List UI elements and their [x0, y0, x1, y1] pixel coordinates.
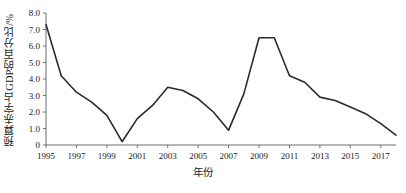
x-tick-label: 2003 — [159, 151, 178, 161]
x-tick-label: 2013 — [311, 151, 330, 161]
x-tick-label: 2001 — [128, 151, 146, 161]
y-tick-label: 7.0 — [29, 25, 41, 35]
x-tick-label: 1999 — [98, 151, 117, 161]
y-tick-label: 2.0 — [29, 107, 41, 117]
x-tick-label: 1995 — [37, 151, 56, 161]
x-tick-label: 1997 — [67, 151, 86, 161]
x-tick-label: 2009 — [250, 151, 269, 161]
y-tick-label: 6.0 — [29, 41, 41, 51]
x-axis-label: 年份 — [0, 168, 406, 179]
y-tick-label: 1.0 — [29, 124, 41, 134]
y-tick-label: 5.0 — [29, 58, 41, 68]
line-chart-plot: 01.02.03.04.05.06.07.08.0 19951997199920… — [0, 0, 406, 193]
x-axis-label-text: 年份 — [193, 167, 213, 178]
x-tick-label: 2005 — [189, 151, 208, 161]
y-tick-label: 8.0 — [29, 8, 41, 18]
x-tick-label: 2017 — [372, 151, 391, 161]
x-tick-label: 2007 — [220, 151, 239, 161]
y-tick-label: 4.0 — [29, 74, 41, 84]
chart-figure: 预算赤字占GDP的百分比/% 01.02.03.04.05.06.07.08.0… — [0, 0, 406, 193]
x-tick-label: 2015 — [341, 151, 360, 161]
x-tick-label: 2011 — [281, 151, 299, 161]
x-axis-ticks: 1995199719992001200320052007200920112013… — [37, 145, 390, 161]
data-series-line — [46, 25, 396, 142]
y-axis-ticks: 01.02.03.04.05.06.07.08.0 — [29, 8, 46, 150]
y-tick-label: 3.0 — [29, 91, 41, 101]
y-tick-label: 0 — [36, 140, 41, 150]
